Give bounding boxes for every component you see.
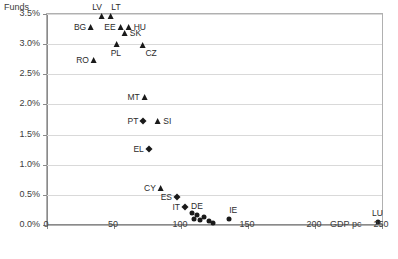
- x-axis-title: GDP pc: [330, 219, 361, 229]
- marker-triangle: [117, 24, 123, 30]
- y-tick-label: 0.0%: [2, 219, 40, 229]
- y-tick-mark: [43, 14, 47, 15]
- y-tick-label: 2.0%: [2, 98, 40, 108]
- marker-circle: [189, 210, 194, 215]
- point-label: ES: [161, 193, 172, 202]
- x-tick-label: 50: [108, 219, 118, 229]
- y-tick-label: 1.0%: [2, 159, 40, 169]
- marker-triangle: [88, 24, 94, 30]
- marker-triangle: [108, 13, 114, 19]
- gridline-horizontal: [47, 74, 382, 75]
- y-tick-mark: [43, 165, 47, 166]
- marker-triangle: [99, 13, 105, 19]
- point-label: SI: [163, 117, 171, 126]
- point-label: CZ: [145, 49, 156, 58]
- gridline-horizontal: [47, 135, 382, 136]
- point-label: EE: [104, 23, 115, 32]
- point-label: PT: [128, 117, 139, 126]
- marker-circle: [192, 216, 197, 221]
- marker-triangle: [155, 118, 161, 124]
- y-tick-mark: [43, 104, 47, 105]
- point-label: RO: [76, 56, 89, 65]
- gridline-horizontal: [47, 195, 382, 196]
- point-label: LT: [111, 3, 120, 12]
- y-tick-mark: [43, 195, 47, 196]
- y-tick-label: 2.5%: [2, 68, 40, 78]
- point-label: SK: [130, 29, 141, 38]
- point-label: BG: [74, 23, 86, 32]
- y-tick-mark: [43, 44, 47, 45]
- y-tick-mark: [43, 74, 47, 75]
- y-tick-label: 3.0%: [2, 38, 40, 48]
- point-label: IT: [172, 203, 180, 212]
- gridline-horizontal: [47, 14, 382, 15]
- marker-triangle: [141, 94, 147, 100]
- x-tick-label: 100: [172, 219, 187, 229]
- gridline-horizontal: [47, 104, 382, 105]
- plot-area: LVLTBGEEHUSKPLCZROMTPTSIELCYESITDEIELU: [46, 13, 383, 226]
- y-axis-line: [47, 14, 48, 225]
- marker-circle: [201, 214, 206, 219]
- marker-diamond: [145, 145, 152, 152]
- marker-triangle: [121, 30, 127, 36]
- y-tick-label: 0.5%: [2, 189, 40, 199]
- marker-circle: [227, 216, 232, 221]
- y-tick-mark: [43, 135, 47, 136]
- y-tick-label: 3.5%: [2, 8, 40, 18]
- x-tick-label: 150: [239, 219, 254, 229]
- point-label: CY: [144, 184, 156, 193]
- marker-triangle: [140, 42, 146, 48]
- point-label: MT: [128, 93, 140, 102]
- x-tick-label: 0: [43, 219, 48, 229]
- x-tick-label: 200: [306, 219, 321, 229]
- x-tick-label: 250: [373, 219, 388, 229]
- gridline-horizontal: [47, 165, 382, 166]
- marker-triangle: [90, 57, 96, 63]
- y-tick-label: 1.5%: [2, 129, 40, 139]
- point-label: LU: [372, 209, 383, 218]
- point-label: DE: [191, 202, 203, 211]
- gridline-horizontal: [47, 44, 382, 45]
- marker-triangle: [113, 41, 119, 47]
- marker-triangle: [157, 185, 163, 191]
- point-label: PL: [111, 49, 121, 58]
- scatter-chart: Funds LVLTBGEEHUSKPLCZROMTPTSIELCYESITDE…: [0, 0, 398, 259]
- marker-circle: [211, 220, 216, 225]
- point-label: LV: [92, 3, 102, 12]
- marker-diamond: [140, 118, 147, 125]
- marker-diamond: [181, 203, 188, 210]
- point-label: EL: [133, 145, 143, 154]
- point-label: IE: [229, 206, 237, 215]
